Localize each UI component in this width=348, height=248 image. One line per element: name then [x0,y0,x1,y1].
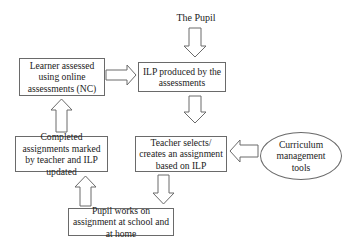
node-learner-assessed: Learner assessed using online assessment… [19,58,105,96]
arrow-down-teacher-to-pupil-works [153,175,174,204]
node-ilp-produced-text: ILP produced by the assessments [142,66,222,89]
start-label-the-pupil: The Pupil [160,12,232,23]
node-curriculum-tools-text: Curriculum management tools [266,139,336,174]
arrow-down-pupil-to-ilp [184,28,206,57]
flowchart-canvas: The Pupil Learner assessed using online … [0,0,348,248]
node-teacher-selects-text: Teacher selects/ creates an assignment b… [139,137,223,172]
node-completed-assignments-text: Completed assignments marked by teacher … [19,131,104,177]
arrow-up-completed-to-learner [51,99,72,132]
node-pupil-works-text: Pupil works on assignment at school and … [72,205,170,240]
arrow-down-ilp-to-teacher [184,96,206,123]
node-learner-assessed-text: Learner assessed using online assessment… [23,60,101,95]
node-ilp-produced: ILP produced by the assessments [138,62,226,92]
arrow-left-tools-to-teacher [230,140,258,162]
arrow-right-learner-to-ilp [106,65,136,85]
arrow-up-pupil-works-to-completed [75,176,96,206]
node-teacher-selects: Teacher selects/ creates an assignment b… [135,136,227,172]
node-curriculum-tools: Curriculum management tools [260,132,342,180]
arrows-layer [0,0,348,248]
node-pupil-works: Pupil works on assignment at school and … [68,208,174,236]
node-completed-assignments: Completed assignments marked by teacher … [15,136,108,172]
